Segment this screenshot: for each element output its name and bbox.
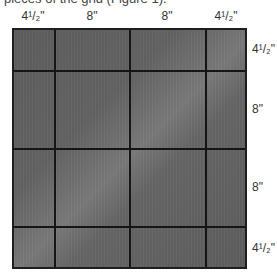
row-label-2: 8"	[252, 103, 263, 115]
caption-fragment: pieces of the grid (Figure 1).	[4, 0, 167, 6]
column-label-4: 4¹/₂"	[215, 10, 238, 22]
row-label-4: 4¹/₂"	[252, 242, 275, 254]
column-label-1: 4¹/₂"	[22, 10, 45, 22]
column-label-2: 8"	[87, 10, 98, 22]
grid-horizontal-line-1	[14, 70, 245, 72]
row-label-1: 4¹/₂"	[252, 43, 275, 55]
grid-horizontal-line-3	[14, 226, 245, 228]
row-label-3: 8"	[252, 181, 263, 193]
grid-horizontal-line-2	[14, 148, 245, 150]
cutting-grid	[12, 28, 247, 269]
column-label-3: 8"	[162, 10, 173, 22]
